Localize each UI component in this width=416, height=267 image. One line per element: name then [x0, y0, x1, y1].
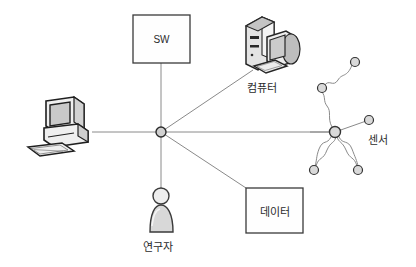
sensor-node-top-right[interactable]	[351, 58, 360, 67]
center-hub-node[interactable]	[156, 127, 166, 137]
computer-power-led	[251, 54, 254, 57]
wave-bottomright-hub	[337, 137, 357, 166]
sensor-cluster-label: 센서	[368, 131, 388, 147]
computer-icon-label: 컴퓨터	[247, 79, 278, 95]
computer-floppy-bay	[250, 45, 259, 48]
sensor-hub-node[interactable]	[330, 127, 341, 138]
computer-drive-bay	[250, 36, 259, 39]
sw-box-label: SW	[133, 15, 190, 63]
diagram-canvas: SW 데이터 컴퓨터 센서 연구자	[0, 0, 416, 267]
network-diagram	[0, 0, 416, 267]
sensor-node-upper-left[interactable]	[318, 84, 327, 93]
desktop-workstation-icon[interactable]	[28, 97, 88, 156]
sensor-node-group	[310, 58, 374, 175]
edge-data-hub	[161, 132, 246, 188]
person-icon[interactable]	[150, 188, 173, 232]
sensor-node-bottom-left[interactable]	[310, 166, 319, 175]
sensor-node-right[interactable]	[365, 116, 374, 125]
sensor-node-bottom-right[interactable]	[354, 166, 363, 175]
tower-computer-icon[interactable]	[246, 17, 300, 73]
sensor-wave-links	[315, 65, 358, 166]
wave-sensorhub-upperleft	[322, 92, 332, 127]
wave-upperleft-topright	[324, 65, 352, 86]
edge-computer-hub	[161, 70, 253, 132]
data-box-label: 데이터	[246, 188, 303, 233]
computer-monitor-screen	[270, 35, 285, 60]
researcher-icon-label: 연구자	[143, 238, 174, 254]
edge-group	[92, 63, 369, 190]
person-head	[153, 188, 169, 204]
workstation-screen	[50, 102, 70, 126]
